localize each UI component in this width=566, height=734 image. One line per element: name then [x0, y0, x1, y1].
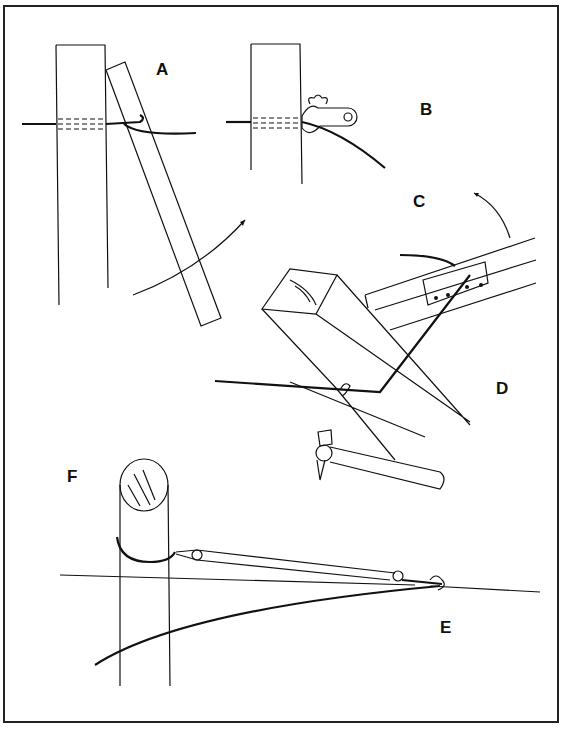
- label-d: D: [496, 379, 508, 398]
- panel-e-f: F E: [60, 459, 540, 686]
- panel-c-d: C D: [215, 192, 536, 489]
- label-a: A: [156, 60, 168, 79]
- label-f: F: [67, 467, 77, 486]
- panel-b: B: [226, 44, 432, 184]
- label-b: B: [420, 100, 432, 119]
- panel-a: A: [22, 45, 245, 326]
- label-e: E: [440, 618, 451, 637]
- illustration: A B C D F: [0, 0, 566, 734]
- label-c: C: [413, 192, 425, 211]
